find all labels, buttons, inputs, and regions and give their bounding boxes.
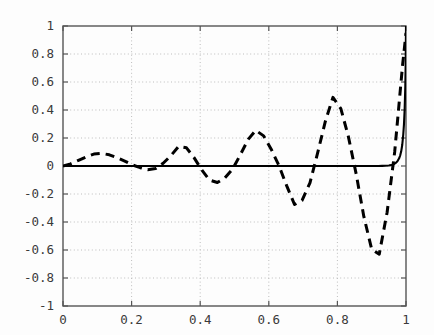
x-tick-label: 0.2	[120, 312, 143, 327]
y-tick-label: -0.6	[24, 242, 54, 257]
y-tick-label: 0.6	[31, 74, 54, 89]
y-tick-label: -0.8	[24, 270, 54, 285]
x-tick-label: 0.4	[189, 312, 212, 327]
x-tick-label: 0	[59, 312, 67, 327]
y-tick-label: 0.8	[31, 46, 54, 61]
y-tick-label: 0	[46, 158, 54, 173]
y-tick-label: -0.4	[24, 214, 54, 229]
y-tick-label: -0.2	[24, 186, 54, 201]
plot-canvas: -1-0.8-0.6-0.4-0.200.20.40.60.81 00.20.4…	[0, 0, 434, 335]
x-tick-label: 0.8	[326, 312, 349, 327]
y-tick-label: 1	[46, 18, 54, 33]
y-tick-label: 0.2	[31, 130, 54, 145]
x-tick-label: 0.6	[258, 312, 281, 327]
figure-background	[0, 0, 434, 335]
y-tick-label: 0.4	[31, 102, 54, 117]
chart-figure: -1-0.8-0.6-0.4-0.200.20.40.60.81 00.20.4…	[0, 0, 434, 335]
y-tick-label: -1	[39, 298, 54, 313]
x-tick-label: 1	[402, 312, 410, 327]
